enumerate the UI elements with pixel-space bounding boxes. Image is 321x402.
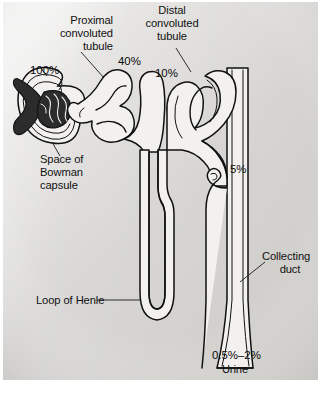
label-pct-distal-start: 10% xyxy=(155,67,178,79)
label-distal-line1: Distal xyxy=(158,4,185,16)
label-bowman-line2: Bowman xyxy=(40,166,83,178)
label-pct-glomerulus: 100% xyxy=(30,64,59,76)
label-pct-proximal-end: 40% xyxy=(118,55,141,67)
glomerulus xyxy=(37,91,71,128)
label-collecting-line1: Collecting xyxy=(262,250,310,262)
label-proximal-line1: Proximal xyxy=(70,14,113,26)
nephron-diagram: Proximal convoluted tubule Distal convol… xyxy=(0,0,321,402)
label-bowman-line1: Space of xyxy=(40,153,84,165)
label-collecting-line2: duct xyxy=(280,263,302,275)
nephron-illustration: Proximal convoluted tubule Distal convol… xyxy=(0,0,321,402)
label-proximal-line2: convoluted xyxy=(60,27,113,39)
label-pct-urine-range: 0.5%–2% xyxy=(212,349,261,361)
label-pct-collecting-duct: 5% xyxy=(230,163,246,175)
label-loop-of-henle: Loop of Henle xyxy=(36,294,104,306)
label-bowman-line3: capsule xyxy=(40,179,78,191)
label-proximal-line3: tubule xyxy=(83,40,113,52)
label-distal-line2: convoluted xyxy=(145,17,198,29)
label-distal-line3: tubule xyxy=(157,30,187,42)
label-urine: Urine xyxy=(222,363,248,375)
